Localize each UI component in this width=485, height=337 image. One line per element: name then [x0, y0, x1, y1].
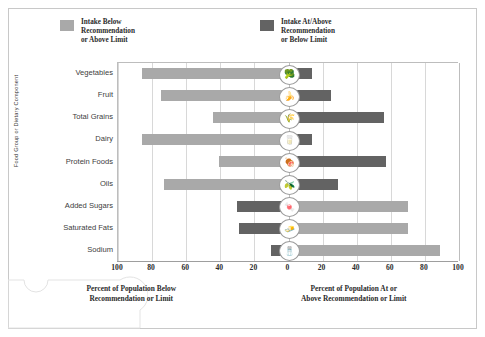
category-label-oils: Oils [1, 179, 113, 188]
x-axis-line [117, 261, 458, 262]
x-tick-label: 40 [341, 263, 371, 272]
chart-figure: Intake Below Recommendation or Above Lim… [0, 0, 485, 337]
salt-shaker-icon: 🧂 [279, 241, 300, 261]
bar-row: 🥛 [118, 129, 458, 151]
bar-row: 🍬 [118, 196, 458, 218]
category-label-saturated-fats: Saturated Fats [1, 223, 113, 232]
bar-left-vegetables [142, 68, 289, 79]
bar-right-added-sugars [289, 201, 408, 212]
x-tick-label: 60 [170, 263, 200, 272]
bar-left-total-grains [213, 112, 288, 123]
grain-icon: 🌾 [279, 109, 300, 129]
x-axis-title-right: Percent of Population At or Above Recomm… [243, 284, 466, 303]
x-axis-tick-labels: 10080604020020406080100 [117, 263, 458, 275]
bar-left-protein-foods [219, 156, 289, 167]
category-label-added-sugars: Added Sugars [1, 201, 113, 210]
legend-label-below: Intake Below Recommendation or Above Lim… [81, 18, 135, 46]
x-tick-label: 20 [307, 263, 337, 272]
x-tick-label: 80 [409, 263, 439, 272]
x-tick-label: 60 [375, 263, 405, 272]
category-label-protein-foods: Protein Foods [1, 157, 113, 166]
x-tick-label: 100 [443, 263, 473, 272]
category-label-dairy: Dairy [1, 134, 113, 143]
bar-row: 🍖 [118, 151, 458, 173]
protein-icon: 🍖 [279, 153, 300, 173]
x-axis-title-left: Percent of Population Below Recommendati… [20, 284, 243, 303]
oil-icon: 🫒 [279, 175, 300, 195]
candy-icon: 🍬 [279, 197, 300, 217]
legend-label-atabove: Intake At/Above Recommendation or Below … [281, 18, 335, 46]
bar-right-sodium [289, 245, 441, 256]
x-axis-titles: Percent of Population Below Recommendati… [20, 284, 465, 303]
bar-left-oils [164, 179, 288, 190]
bar-row: 🧈 [118, 218, 458, 240]
bar-row: 🥦 [118, 63, 458, 85]
bar-right-total-grains [289, 112, 384, 123]
category-label-total-grains: Total Grains [1, 112, 113, 121]
bar-row: 🌾 [118, 107, 458, 129]
plot-area: 🥦🍌🌾🥛🍖🫒🍬🧈🧂 [117, 62, 458, 261]
legend-swatch-below [60, 20, 74, 31]
gridline-100 [459, 63, 460, 261]
x-tick-label: 40 [204, 263, 234, 272]
bar-right-saturated-fats [289, 223, 408, 234]
legend-item-below: Intake Below Recommendation or Above Lim… [60, 18, 230, 60]
banana-icon: 🍌 [279, 87, 300, 107]
butter-icon: 🧈 [279, 219, 300, 239]
legend-item-atabove: Intake At/Above Recommendation or Below … [260, 18, 430, 60]
category-label-fruit: Fruit [1, 90, 113, 99]
x-tick-label: 0 [273, 263, 303, 272]
x-tick-label: 100 [102, 263, 132, 272]
x-tick-label: 80 [136, 263, 166, 272]
bar-right-protein-foods [289, 156, 386, 167]
category-label-vegetables: Vegetables [1, 68, 113, 77]
milk-icon: 🥛 [279, 131, 300, 151]
bar-left-fruit [161, 90, 289, 101]
legend-swatch-atabove [260, 20, 274, 31]
broccoli-icon: 🥦 [279, 65, 300, 85]
bar-row: 🍌 [118, 85, 458, 107]
bar-row: 🧂 [118, 240, 458, 262]
bar-left-dairy [142, 134, 289, 145]
chart-legend: Intake Below Recommendation or Above Lim… [60, 18, 430, 60]
bar-row: 🫒 [118, 174, 458, 196]
y-axis-tick-labels: VegetablesFruitTotal GrainsDairyProtein … [0, 62, 113, 261]
x-tick-label: 20 [238, 263, 268, 272]
category-label-sodium: Sodium [1, 245, 113, 254]
